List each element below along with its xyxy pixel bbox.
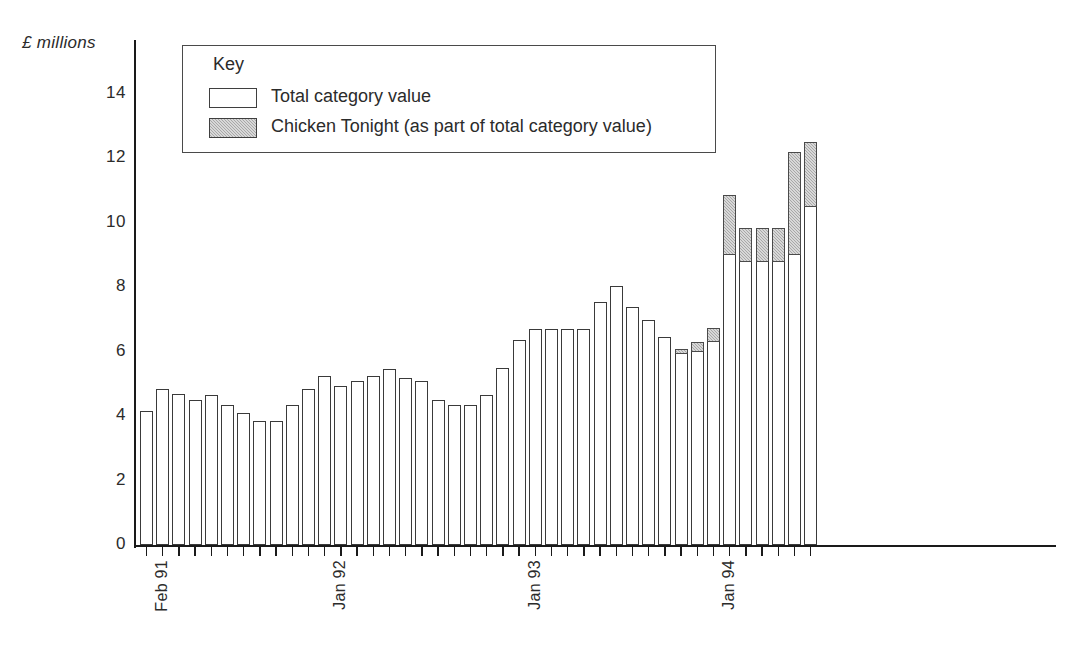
- bar-total-category-value: [529, 329, 542, 545]
- y-axis-tick-label: 14: [86, 83, 126, 103]
- y-axis-tick-labels: 02468101214: [78, 0, 126, 648]
- x-axis-tick: [373, 547, 374, 556]
- bar-group: [723, 42, 736, 545]
- x-axis-tick: [146, 547, 147, 556]
- bar-total-category-value: [415, 381, 428, 545]
- bar-total-category-value: [658, 337, 671, 545]
- legend-swatch-total-icon: [209, 88, 257, 108]
- x-axis-tick-label: Feb 91: [153, 560, 171, 612]
- y-axis-tick-label: 2: [86, 470, 126, 490]
- x-axis-tick-label: Jan 94: [720, 560, 738, 610]
- bar-chicken-tonight: [804, 142, 817, 206]
- bar-total-category-value: [189, 400, 202, 545]
- bar-group: [739, 42, 752, 545]
- bar-total-category-value: [480, 395, 493, 545]
- x-axis-tick: [275, 547, 276, 556]
- x-axis-tick: [308, 547, 309, 556]
- bar-total-category-value: [610, 286, 623, 545]
- bar-total-category-value: [318, 376, 331, 545]
- x-axis-tick: [405, 547, 406, 556]
- x-axis-tick: [243, 547, 244, 556]
- bar-group: [772, 42, 785, 545]
- x-axis-tick: [502, 547, 503, 556]
- x-axis-tick: [680, 547, 681, 556]
- x-axis-tick: [340, 547, 341, 556]
- x-axis-tick: [810, 547, 811, 556]
- bar-total-category-value: [513, 340, 526, 545]
- x-axis-tick: [567, 547, 568, 556]
- y-axis-tick-label: 8: [86, 276, 126, 296]
- y-axis-tick-label: 6: [86, 341, 126, 361]
- x-axis-tick: [632, 547, 633, 556]
- x-axis-tick: [292, 547, 293, 556]
- x-axis-tick: [761, 547, 762, 556]
- bar-chicken-tonight: [772, 228, 785, 262]
- x-axis-tick: [616, 547, 617, 556]
- x-axis-tick: [437, 547, 438, 556]
- x-axis-tick: [454, 547, 455, 556]
- bar-chicken-tonight: [707, 328, 720, 342]
- y-axis-tick-label: 0: [86, 534, 126, 554]
- bar-total-category-value: [334, 386, 347, 545]
- bar-chicken-tonight: [723, 195, 736, 255]
- x-axis-tick: [729, 547, 730, 556]
- bar-chicken-tonight: [788, 152, 801, 255]
- legend-label: Total category value: [271, 86, 431, 107]
- x-axis-tick-label: Jan 93: [526, 560, 544, 610]
- bar-total-category-value: [594, 302, 607, 545]
- x-axis-tick: [389, 547, 390, 556]
- bar-total-category-value: [626, 307, 639, 545]
- bar-total-category-value: [561, 329, 574, 545]
- bar-chicken-tonight: [691, 342, 704, 352]
- bar-total-category-value: [545, 329, 558, 545]
- bar-total-category-value: [577, 329, 590, 545]
- x-axis-tick: [162, 547, 163, 556]
- legend-swatch-chicken-tonight-icon: [209, 118, 257, 138]
- bar-total-category-value: [448, 405, 461, 545]
- bar-total-category-value: [496, 368, 509, 545]
- legend-title: Key: [213, 54, 244, 75]
- bar-total-category-value: [383, 369, 396, 545]
- bar-total-category-value: [772, 228, 785, 545]
- bar-total-category-value: [351, 381, 364, 545]
- legend-label: Chicken Tonight (as part of total catego…: [271, 116, 652, 137]
- x-axis-tick: [227, 547, 228, 556]
- x-axis-tick: [486, 547, 487, 556]
- x-axis-tick: [535, 547, 536, 556]
- x-axis-tick: [324, 547, 325, 556]
- bar-total-category-value: [707, 328, 720, 545]
- x-axis-tick: [778, 547, 779, 556]
- bar-total-category-value: [140, 411, 153, 545]
- x-axis-tick: [713, 547, 714, 556]
- x-axis-tick: [599, 547, 600, 556]
- bar-chart: £ millions 02468101214 Feb 91Jan 92Jan 9…: [0, 0, 1081, 648]
- x-axis-tick: [664, 547, 665, 556]
- bar-group: [788, 42, 801, 545]
- bar-total-category-value: [286, 405, 299, 545]
- bar-total-category-value: [156, 389, 169, 545]
- x-axis-tick: [211, 547, 212, 556]
- x-axis-tick: [518, 547, 519, 556]
- bar-total-category-value: [756, 228, 769, 545]
- bar-group: [804, 42, 817, 545]
- x-axis-tick: [551, 547, 552, 556]
- bar-total-category-value: [739, 228, 752, 545]
- y-axis-tick-label: 4: [86, 405, 126, 425]
- bar-total-category-value: [221, 405, 234, 545]
- bar-group: [156, 42, 169, 545]
- x-axis-tick-label: Jan 92: [331, 560, 349, 610]
- bar-total-category-value: [367, 376, 380, 545]
- y-axis-tick-label: 10: [86, 212, 126, 232]
- x-axis-tick: [356, 547, 357, 556]
- bar-total-category-value: [253, 421, 266, 545]
- x-axis-tick: [583, 547, 584, 556]
- bar-total-category-value: [399, 378, 412, 546]
- x-axis-tick: [745, 547, 746, 556]
- x-axis-tick: [194, 547, 195, 556]
- bar-group: [140, 42, 153, 545]
- x-axis-tick: [421, 547, 422, 556]
- y-axis-tick-label: 12: [86, 147, 126, 167]
- x-axis-tick: [259, 547, 260, 556]
- bar-chicken-tonight: [756, 228, 769, 262]
- bar-total-category-value: [172, 394, 185, 545]
